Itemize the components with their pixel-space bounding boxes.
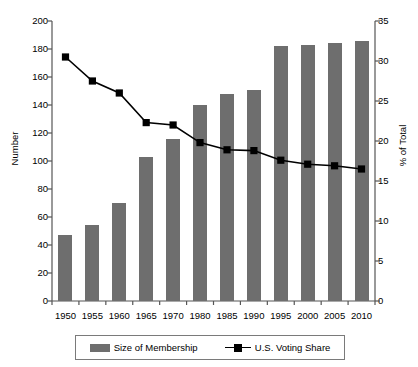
- x-tick-label: 1955: [79, 310, 106, 321]
- line-marker-icon: [225, 343, 251, 352]
- x-tick-label: 2005: [321, 310, 348, 321]
- chart-legend: Size of Membership U.S. Voting Share: [75, 335, 345, 360]
- legend-label-membership: Size of Membership: [114, 342, 198, 353]
- left-tick-label: 180: [22, 44, 48, 54]
- right-tick-label: 5: [378, 256, 404, 266]
- left-tick-label: 40: [22, 240, 48, 250]
- bar-swatch-icon: [90, 344, 110, 352]
- x-tick-label: 2000: [294, 310, 321, 321]
- x-tick-label: 1965: [133, 310, 160, 321]
- line-marker: [196, 139, 203, 146]
- x-tick-label: 1985: [214, 310, 241, 321]
- line-marker: [304, 161, 311, 168]
- x-tick-label: 1970: [160, 310, 187, 321]
- left-axis-ticks: 020406080100120140160180200: [0, 0, 48, 367]
- legend-item-voting-share: U.S. Voting Share: [225, 342, 331, 353]
- right-tick-label: 30: [378, 56, 404, 66]
- line-marker: [116, 89, 123, 96]
- left-tick-label: 60: [22, 212, 48, 222]
- x-tick-label: 1980: [187, 310, 214, 321]
- right-tick-label: 15: [378, 176, 404, 186]
- line-marker: [143, 119, 150, 126]
- line-marker: [170, 121, 177, 128]
- x-tick-label: 2010: [348, 310, 375, 321]
- left-tick-label: 200: [22, 16, 48, 26]
- x-tick-label: 1960: [106, 310, 133, 321]
- line-marker: [358, 165, 365, 172]
- chart-container: Number % of Total 0204060801001201401601…: [0, 0, 418, 367]
- legend-item-membership: Size of Membership: [90, 342, 198, 353]
- legend-label-voting-share: U.S. Voting Share: [255, 342, 331, 353]
- line-series: [52, 21, 375, 301]
- line-marker: [331, 162, 338, 169]
- line-marker: [277, 157, 284, 164]
- x-tick-label: 1995: [267, 310, 294, 321]
- left-tick-label: 0: [22, 296, 48, 306]
- plot-area: [52, 21, 375, 301]
- left-tick-label: 140: [22, 100, 48, 110]
- right-axis-ticks: 05101520253035: [378, 0, 418, 367]
- line-path: [66, 57, 362, 169]
- right-tick-label: 20: [378, 136, 404, 146]
- right-tick-label: 35: [378, 16, 404, 26]
- x-tick-label: 1950: [52, 310, 79, 321]
- right-tick-label: 0: [378, 296, 404, 306]
- x-tick-label: 1990: [240, 310, 267, 321]
- right-tick-label: 10: [378, 216, 404, 226]
- line-marker: [62, 53, 69, 60]
- left-tick-label: 80: [22, 184, 48, 194]
- right-tick-label: 25: [378, 96, 404, 106]
- left-tick-label: 120: [22, 128, 48, 138]
- left-tick-label: 160: [22, 72, 48, 82]
- line-marker: [223, 146, 230, 153]
- line-marker: [89, 77, 96, 84]
- left-tick-label: 100: [22, 156, 48, 166]
- line-marker: [250, 147, 257, 154]
- left-tick-label: 20: [22, 268, 48, 278]
